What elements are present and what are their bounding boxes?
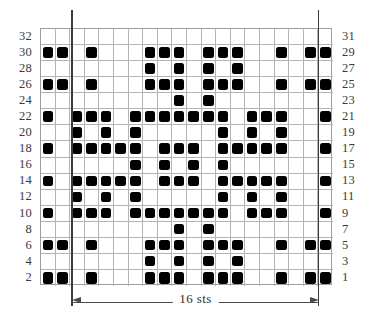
chart-cell-filled[interactable] [129,190,144,206]
chart-cell-empty[interactable] [99,270,114,286]
chart-cell-empty[interactable] [158,61,173,77]
chart-cell-empty[interactable] [318,125,333,141]
chart-cell-empty[interactable] [245,158,260,174]
chart-cell-filled[interactable] [187,141,202,157]
chart-cell-filled[interactable] [304,45,319,61]
chart-cell-filled[interactable] [202,93,217,109]
chart-cell-filled[interactable] [85,174,100,190]
chart-cell-filled[interactable] [216,125,231,141]
chart-cell-empty[interactable] [289,141,304,157]
chart-cell-empty[interactable] [245,61,260,77]
chart-cell-filled[interactable] [56,45,71,61]
chart-cell-filled[interactable] [245,109,260,125]
chart-cell-empty[interactable] [187,45,202,61]
chart-cell-empty[interactable] [143,29,158,45]
chart-cell-empty[interactable] [187,222,202,238]
chart-cell-empty[interactable] [114,254,129,270]
chart-cell-empty[interactable] [318,158,333,174]
chart-cell-filled[interactable] [172,254,187,270]
chart-cell-empty[interactable] [187,270,202,286]
chart-cell-filled[interactable] [172,45,187,61]
chart-cell-empty[interactable] [275,158,290,174]
chart-cell-empty[interactable] [56,158,71,174]
chart-cell-empty[interactable] [260,238,275,254]
chart-cell-filled[interactable] [158,141,173,157]
chart-cell-empty[interactable] [216,222,231,238]
chart-cell-empty[interactable] [202,29,217,45]
chart-cell-empty[interactable] [275,93,290,109]
chart-cell-empty[interactable] [41,61,56,77]
chart-cell-empty[interactable] [99,45,114,61]
chart-cell-filled[interactable] [41,45,56,61]
chart-cell-empty[interactable] [129,77,144,93]
chart-cell-filled[interactable] [41,109,56,125]
chart-cell-empty[interactable] [41,254,56,270]
chart-cell-empty[interactable] [245,238,260,254]
chart-cell-empty[interactable] [304,125,319,141]
chart-cell-empty[interactable] [289,158,304,174]
chart-cell-empty[interactable] [304,158,319,174]
chart-cell-filled[interactable] [143,206,158,222]
chart-cell-filled[interactable] [99,190,114,206]
chart-cell-empty[interactable] [304,174,319,190]
chart-cell-filled[interactable] [41,206,56,222]
chart-cell-empty[interactable] [318,29,333,45]
chart-cell-filled[interactable] [202,109,217,125]
chart-cell-empty[interactable] [99,222,114,238]
chart-cell-empty[interactable] [318,222,333,238]
chart-cell-filled[interactable] [99,125,114,141]
chart-cell-empty[interactable] [99,93,114,109]
chart-cell-empty[interactable] [41,190,56,206]
chart-cell-filled[interactable] [216,77,231,93]
chart-cell-empty[interactable] [114,93,129,109]
chart-cell-empty[interactable] [143,190,158,206]
chart-cell-empty[interactable] [231,93,246,109]
chart-cell-filled[interactable] [231,238,246,254]
chart-cell-empty[interactable] [41,125,56,141]
chart-cell-empty[interactable] [245,270,260,286]
chart-cell-empty[interactable] [85,222,100,238]
chart-cell-filled[interactable] [318,174,333,190]
chart-cell-filled[interactable] [187,174,202,190]
chart-cell-filled[interactable] [158,270,173,286]
chart-cell-filled[interactable] [202,77,217,93]
chart-cell-filled[interactable] [231,141,246,157]
chart-cell-empty[interactable] [129,29,144,45]
chart-cell-empty[interactable] [231,206,246,222]
chart-cell-empty[interactable] [275,254,290,270]
chart-cell-empty[interactable] [318,190,333,206]
chart-cell-empty[interactable] [158,125,173,141]
chart-cell-filled[interactable] [231,254,246,270]
chart-cell-empty[interactable] [129,222,144,238]
chart-cell-filled[interactable] [275,77,290,93]
chart-cell-filled[interactable] [143,45,158,61]
chart-cell-filled[interactable] [318,141,333,157]
chart-cell-filled[interactable] [158,77,173,93]
chart-cell-filled[interactable] [231,270,246,286]
chart-cell-empty[interactable] [245,93,260,109]
chart-cell-empty[interactable] [304,222,319,238]
chart-cell-filled[interactable] [231,174,246,190]
chart-cell-empty[interactable] [289,93,304,109]
chart-cell-empty[interactable] [129,61,144,77]
chart-cell-empty[interactable] [289,61,304,77]
chart-cell-filled[interactable] [172,222,187,238]
chart-cell-filled[interactable] [172,206,187,222]
chart-cell-empty[interactable] [187,254,202,270]
chart-cell-empty[interactable] [41,222,56,238]
chart-cell-filled[interactable] [275,109,290,125]
chart-cell-filled[interactable] [318,109,333,125]
chart-cell-filled[interactable] [85,45,100,61]
chart-cell-empty[interactable] [231,109,246,125]
chart-cell-empty[interactable] [245,45,260,61]
chart-cell-filled[interactable] [143,77,158,93]
chart-cell-filled[interactable] [129,174,144,190]
chart-cell-empty[interactable] [289,206,304,222]
chart-cell-filled[interactable] [129,158,144,174]
chart-cell-empty[interactable] [172,29,187,45]
chart-cell-filled[interactable] [260,141,275,157]
chart-cell-empty[interactable] [129,254,144,270]
chart-cell-filled[interactable] [216,190,231,206]
chart-cell-empty[interactable] [114,109,129,125]
chart-cell-empty[interactable] [56,174,71,190]
